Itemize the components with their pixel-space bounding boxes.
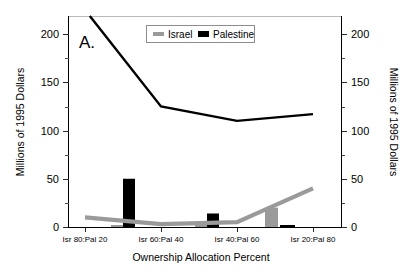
chart-legend: Israel Palestine (147, 26, 255, 43)
left-tick-label-150: 150 (41, 76, 59, 88)
legend-label-palestine: Palestine (213, 29, 255, 40)
bar-israel-2 (195, 225, 207, 227)
chart-figure: 0 50 100 150 200 Millions of 1995 Dollar… (0, 0, 408, 276)
legend-swatch-israel (153, 32, 164, 36)
legend-swatch-palestine (198, 31, 209, 37)
x-tick-label-3: Isr 40:Pal 60 (215, 235, 260, 244)
left-axis-title: Millions of 1995 Dollars (14, 68, 26, 177)
bar-palestine-3 (280, 225, 295, 227)
legend-label-israel: Israel (168, 29, 192, 40)
left-tick-label-50: 50 (47, 173, 59, 185)
x-tick-label-1: Isr 80:Pal 20 (63, 235, 108, 244)
bar-israel-1 (111, 225, 123, 227)
right-tick-label-50: 50 (351, 173, 363, 185)
right-tick-label-100: 100 (351, 125, 369, 137)
x-tick-label-2: Isr 60:Pal 40 (139, 235, 184, 244)
x-tick-label-4: Isr 20:Pal 80 (291, 235, 336, 244)
right-tick-label-150: 150 (351, 76, 369, 88)
chart-svg: 0 50 100 150 200 Millions of 1995 Dollar… (0, 0, 408, 276)
right-tick-label-200: 200 (351, 28, 369, 40)
left-tick-label-100: 100 (41, 125, 59, 137)
left-tick-label-200: 200 (41, 28, 59, 40)
bottom-axis-title: Ownership Allocation Percent (132, 251, 269, 263)
panel-label: A. (79, 33, 95, 52)
right-axis-title: Millions of 1995 Dollars (388, 68, 400, 177)
right-tick-label-0: 0 (351, 221, 357, 233)
left-tick-label-0: 0 (53, 221, 59, 233)
